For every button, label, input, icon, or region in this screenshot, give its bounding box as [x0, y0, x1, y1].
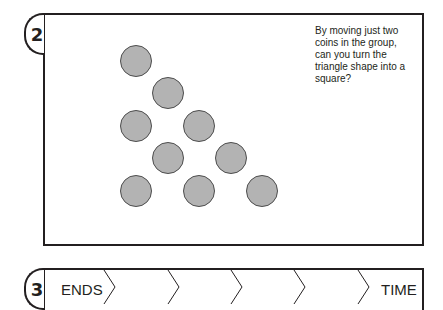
coin-7[interactable] [120, 175, 152, 207]
ladder-start-word: ENDS [61, 281, 103, 298]
puzzle-3-number: 3 [31, 279, 44, 300]
ladder-end-word: TIME [381, 281, 417, 298]
puzzle-2-number: 2 [31, 24, 44, 45]
coin-9[interactable] [246, 175, 278, 207]
coin-1[interactable] [120, 45, 152, 77]
coin-2[interactable] [152, 77, 184, 109]
puzzle-3-number-badge: 3 [24, 268, 44, 310]
ladder-blank-cell[interactable] [117, 272, 169, 302]
coin-4[interactable] [183, 110, 215, 142]
ladder-blank-cell[interactable] [181, 272, 233, 302]
puzzle-3-word-ladder: ENDS TIME [43, 268, 424, 310]
ladder-blank-cell[interactable] [244, 272, 296, 302]
ladder-blank-cell[interactable] [307, 272, 359, 302]
puzzle-2-question: By moving just two coins in the group, c… [315, 25, 415, 85]
coin-6[interactable] [215, 142, 247, 174]
puzzle-2-number-badge: 2 [24, 13, 44, 55]
coin-3[interactable] [120, 110, 152, 142]
coin-5[interactable] [152, 142, 184, 174]
coin-8[interactable] [183, 175, 215, 207]
